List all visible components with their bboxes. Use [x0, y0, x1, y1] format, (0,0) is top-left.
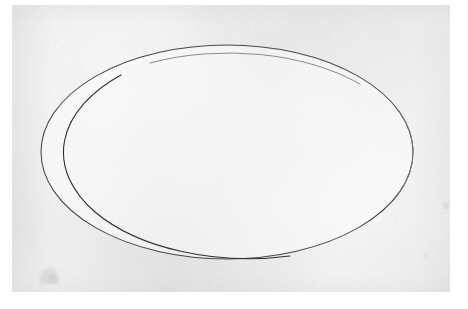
scanned-page: Hand-drawn ellipse on paper — [0, 0, 468, 309]
paper-sheet — [12, 5, 450, 292]
paper-illumination-vignette — [12, 5, 450, 292]
paper-grain-texture — [12, 5, 450, 292]
